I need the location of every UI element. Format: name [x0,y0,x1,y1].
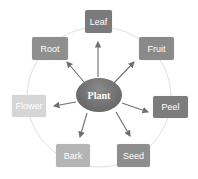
node-leaf-label: Leaf [90,17,108,27]
arrow-to-peel [122,103,148,112]
node-bark: Bark [56,144,90,167]
node-flower: Flower [12,95,46,117]
node-seed: Seed [117,144,150,167]
center-node-label: Plant [88,90,111,101]
node-seed-label: Seed [123,151,144,161]
arrow-to-seed [116,112,130,136]
node-fruit-label: Fruit [148,44,166,54]
arrow-to-fruit [114,62,134,83]
plant-parts-diagram: Leaf Fruit Peel Seed Bark Flower Root Pl… [0,0,198,179]
arrow-to-root [67,62,84,82]
node-flower-label: Flower [15,101,42,111]
node-peel: Peel [153,96,188,118]
arrow-to-flower [54,102,76,106]
center-node-plant: Plant [76,78,122,112]
node-fruit: Fruit [139,37,174,60]
node-root-label: Root [40,44,59,54]
node-peel-label: Peel [161,102,179,112]
arrow-to-bark [80,113,87,137]
node-leaf: Leaf [85,10,112,33]
node-root: Root [32,37,68,60]
node-bark-label: Bark [64,151,83,161]
